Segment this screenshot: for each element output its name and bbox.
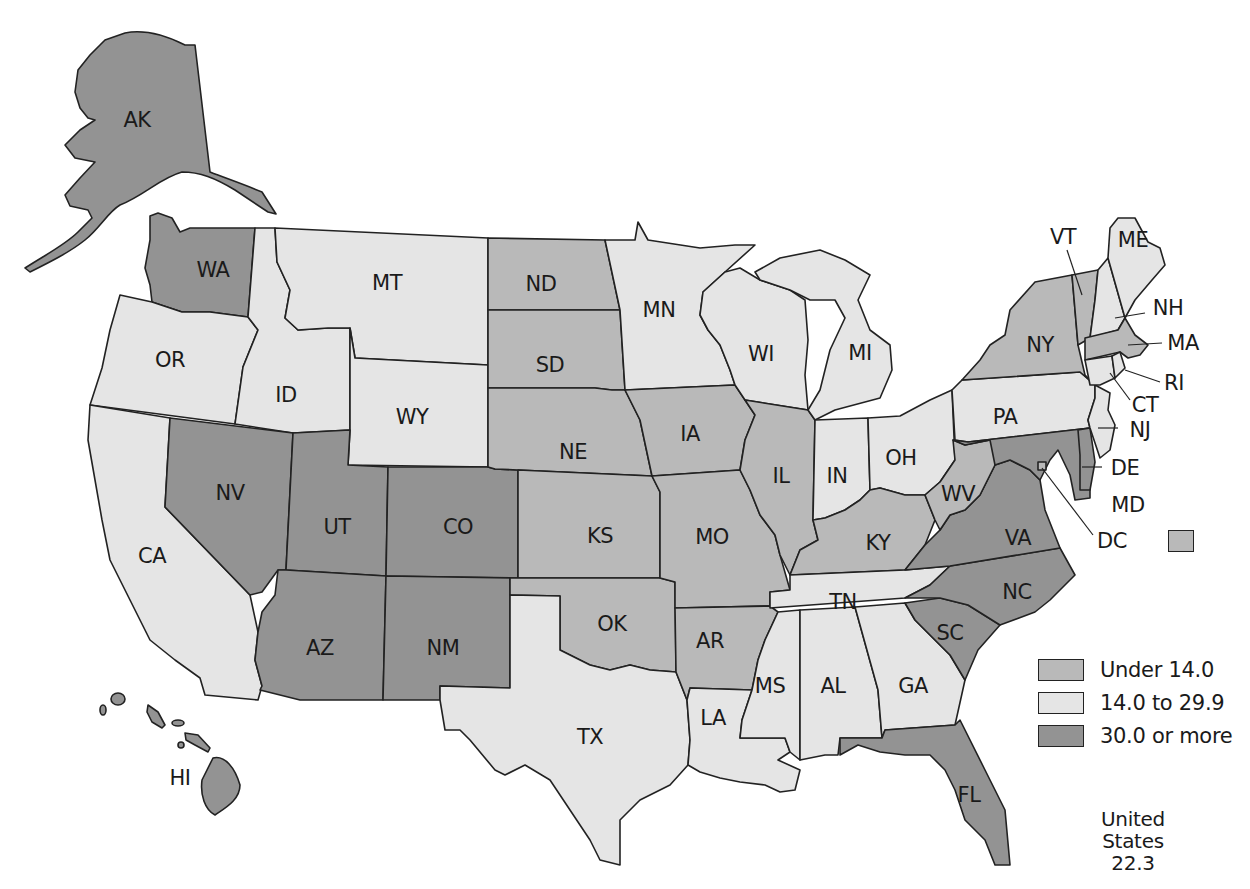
us-total-value: 22.3 [1068, 852, 1198, 874]
label-SD: SD [536, 353, 565, 377]
label-MN: MN [643, 298, 676, 322]
label-WA: WA [197, 258, 230, 282]
state-SD [488, 310, 625, 390]
label-LA: LA [700, 706, 726, 730]
label-VT: VT [1050, 225, 1076, 249]
label-KS: KS [587, 524, 613, 548]
us-total: United States 22.3 [1068, 808, 1198, 874]
label-AZ: AZ [306, 636, 334, 660]
legend-swatch-under-14 [1038, 659, 1084, 681]
label-WV: WV [941, 482, 975, 506]
label-TN: TN [829, 590, 857, 614]
label-WY: WY [396, 405, 429, 429]
label-MI: MI [848, 341, 871, 365]
label-CA: CA [138, 544, 166, 568]
legend-item-30-or-more: 30.0 or more [1038, 722, 1232, 749]
leader-RI [1125, 370, 1160, 382]
label-WI: WI [748, 342, 774, 366]
legend-label: 14.0 to 29.9 [1100, 691, 1224, 715]
label-CT: CT [1132, 393, 1159, 417]
dc-color-swatch [1168, 530, 1194, 552]
label-CO: CO [443, 515, 473, 539]
label-NE: NE [559, 440, 587, 464]
label-OK: OK [597, 612, 626, 636]
label-NH: NH [1153, 296, 1184, 320]
state-FL [840, 720, 1010, 865]
label-DE: DE [1111, 456, 1139, 480]
label-MA: MA [1167, 331, 1198, 355]
legend-swatch-14-to-29-9 [1038, 692, 1084, 714]
label-NV: NV [215, 481, 244, 505]
label-DC: DC [1097, 529, 1127, 553]
leader-CT [1110, 373, 1130, 400]
legend-swatch-30-or-more [1038, 725, 1084, 747]
label-AK: AK [123, 108, 150, 132]
label-HI: HI [170, 766, 191, 790]
legend-item-14-to-29-9: 14.0 to 29.9 [1038, 689, 1232, 716]
label-UT: UT [323, 515, 350, 539]
label-IN: IN [827, 464, 848, 488]
state-HI [100, 693, 240, 815]
legend-label: 30.0 or more [1100, 724, 1232, 748]
label-NJ: NJ [1130, 418, 1151, 442]
label-IA: IA [680, 422, 700, 446]
legend: Under 14.0 14.0 to 29.9 30.0 or more [1038, 656, 1232, 755]
legend-item-under-14: Under 14.0 [1038, 656, 1232, 683]
label-KY: KY [866, 531, 891, 555]
label-ME: ME [1118, 228, 1148, 252]
legend-label: Under 14.0 [1100, 658, 1214, 682]
state-CT [1085, 356, 1115, 385]
label-RI: RI [1164, 371, 1184, 395]
label-GA: GA [898, 674, 928, 698]
label-IL: IL [773, 464, 790, 488]
label-ID: ID [275, 383, 296, 407]
label-FL: FL [958, 783, 981, 807]
state-RI [1112, 352, 1125, 378]
label-AL: AL [820, 674, 845, 698]
label-MT: MT [372, 271, 402, 295]
label-VA: VA [1005, 526, 1031, 550]
label-NM: NM [427, 636, 460, 660]
label-PA: PA [993, 405, 1018, 429]
label-NC: NC [1002, 580, 1031, 604]
us-total-label: United States [1068, 808, 1198, 852]
label-MD: MD [1111, 493, 1144, 517]
label-MS: MS [755, 674, 785, 698]
label-AR: AR [696, 629, 724, 653]
label-OH: OH [885, 446, 916, 470]
label-NY: NY [1026, 333, 1054, 357]
label-TX: TX [577, 725, 603, 749]
label-MO: MO [695, 525, 729, 549]
us-choropleth-map [0, 0, 1250, 889]
label-SC: SC [937, 621, 964, 645]
state-AZ [255, 570, 386, 700]
label-ND: ND [526, 272, 557, 296]
label-OR: OR [155, 348, 185, 372]
